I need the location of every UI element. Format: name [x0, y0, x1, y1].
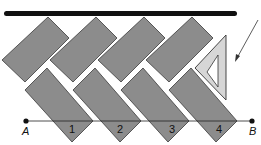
- arrow-icon: [235, 20, 258, 62]
- label-b: B: [249, 125, 256, 137]
- upper-tiles: [2, 17, 213, 82]
- lower-tile-1: [25, 68, 93, 142]
- point-a: [23, 118, 28, 123]
- top-bar: [4, 11, 237, 16]
- point-b: [249, 118, 254, 123]
- upper-tile-1: [2, 17, 69, 82]
- upper-tile-2: [50, 17, 117, 82]
- upper-tile-3: [98, 17, 165, 82]
- tile-number-4: 4: [216, 123, 222, 135]
- tile-number-2: 2: [117, 123, 123, 135]
- label-a: A: [22, 125, 29, 137]
- tile-number-1: 1: [69, 123, 75, 135]
- tile-number-3: 3: [169, 123, 175, 135]
